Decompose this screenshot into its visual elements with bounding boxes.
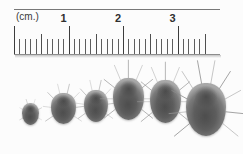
mite-specimen — [186, 83, 226, 136]
ruler-unit-label: (cm.) — [16, 11, 39, 23]
ruler-tick-minor — [30, 39, 31, 54]
mite-specimen — [22, 103, 39, 125]
ruler-tick-minor — [101, 39, 102, 54]
ruler-tick-minor — [167, 39, 168, 54]
ruler-tick-minor — [74, 39, 75, 54]
ruler-tick-minor — [41, 34, 42, 54]
ruler-tick-minor — [205, 34, 206, 54]
ruler-tick-minor — [156, 39, 157, 54]
centimetre-ruler: (cm.) 123 — [14, 9, 220, 55]
ruler-tick-minor — [183, 39, 184, 54]
ruler-tick-minor — [107, 39, 108, 54]
ruler-tick-minor — [188, 39, 189, 54]
ruler-tick-minor — [96, 34, 97, 54]
ruler-tick-minor — [112, 39, 113, 54]
ruler-tick-minor — [118, 39, 119, 54]
ruler-label-1: 1 — [61, 12, 67, 24]
ruler-tick-minor — [150, 34, 151, 54]
ruler-tick-minor — [145, 39, 146, 54]
ruler-tick-major — [69, 26, 70, 54]
mite-specimen-row — [0, 60, 243, 154]
ruler-top-edge — [14, 9, 220, 10]
ruler-label-2: 2 — [115, 12, 121, 24]
ruler-tick-minor — [58, 39, 59, 54]
ruler-tick-minor — [134, 39, 135, 54]
ruler-tick-minor — [36, 39, 37, 54]
ruler-tick-major — [178, 26, 179, 54]
ruler-tick-minor — [25, 39, 26, 54]
ruler-tick-minor — [47, 39, 48, 54]
ruler-tick-minor — [194, 39, 195, 54]
ruler-tick-minor — [52, 39, 53, 54]
ruler-tick-major — [123, 26, 124, 54]
ruler-tick-minor — [79, 39, 80, 54]
ruler-tick-major — [14, 26, 15, 54]
ruler-tick-minor — [128, 39, 129, 54]
ruler-tick-minor — [199, 39, 200, 54]
photograph-scene: (cm.) 123 — [0, 0, 243, 154]
ruler-tick-minor — [85, 39, 86, 54]
ruler-tick-minor — [19, 39, 20, 54]
ruler-tick-minor — [161, 39, 162, 54]
ruler-tick-minor — [139, 39, 140, 54]
ruler-tick-minor — [63, 39, 64, 54]
ruler-drop-shadow — [15, 55, 221, 58]
ruler-tick-minor — [90, 39, 91, 54]
ruler-tick-minor — [172, 39, 173, 54]
ruler-label-3: 3 — [170, 12, 176, 24]
